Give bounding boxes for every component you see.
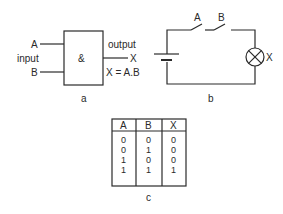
caption-c: c [146,192,151,203]
cell: 1 [146,145,151,155]
cell: 0 [171,145,176,155]
cell: 0 [146,155,151,165]
diagram-canvas: A input B & output X X = A.B a A B X b A… [0,0,283,214]
caption-a: a [81,93,87,104]
panel-b-circuit [154,24,264,84]
lamp-x-label: X [266,52,273,63]
and-gate-symbol: & [78,53,85,64]
cell: 0 [171,135,176,145]
table-body: 0 0 0 0 1 0 1 0 0 1 1 1 [121,135,176,175]
output-x-label: X [130,53,137,64]
cell: 0 [121,135,126,145]
switch-a [191,24,202,30]
equation-label: X = A.B [106,67,140,78]
cell: 0 [171,155,176,165]
switch-b-label: B [218,12,225,23]
header-b: B [145,120,152,131]
cell: 0 [146,135,151,145]
input-a-label: A [31,39,38,50]
cell: 0 [121,145,126,155]
header-x: X [170,120,177,131]
switch-a-label: A [194,12,201,23]
output-label: output [108,39,136,50]
input-label: input [17,53,39,64]
header-a: A [120,120,127,131]
cell: 1 [171,165,176,175]
wire-top-right [231,30,255,48]
table-header: A B X [120,120,177,131]
cell: 1 [121,155,126,165]
caption-b: b [208,93,214,104]
cell: 1 [121,165,126,175]
wire-bottom [167,62,255,84]
switch-b [214,24,225,30]
wire-top-left [167,30,191,49]
cell: 1 [146,165,151,175]
input-b-label: B [31,67,38,78]
